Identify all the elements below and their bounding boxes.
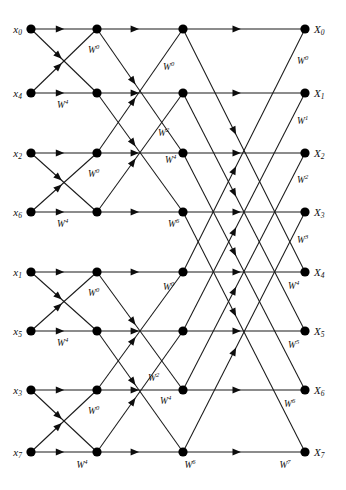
twiddle-factor-label: W2 xyxy=(158,126,170,138)
butterfly-node xyxy=(300,267,309,276)
input-label: x0 xyxy=(12,23,22,38)
butterfly-node xyxy=(178,385,187,394)
fft-butterfly-diagram: W0W4W0W4W0W4W0W4W0W2W4W6W0W2W4W6W0W1W2W3… xyxy=(0,0,346,490)
butterfly-node xyxy=(178,207,187,216)
twiddle-factor-label: W6 xyxy=(284,397,296,409)
edge-arrowhead xyxy=(229,247,236,256)
edge-arrowhead xyxy=(128,76,136,85)
arrowhead-layer xyxy=(53,26,241,456)
twiddle-factor-label: W5 xyxy=(288,338,300,350)
twiddle-factor-label: W4 xyxy=(57,217,69,229)
output-label: X0 xyxy=(313,23,325,38)
edge-arrowhead xyxy=(232,90,240,97)
twiddle-factor-label: W4 xyxy=(57,98,69,110)
twiddle-factor-label: W0 xyxy=(163,280,175,292)
butterfly-node xyxy=(92,24,101,33)
output-label: X6 xyxy=(313,384,325,399)
butterfly-node xyxy=(300,447,309,456)
input-label: x3 xyxy=(12,384,22,399)
edge-arrowhead xyxy=(229,166,236,175)
butterfly-node xyxy=(26,267,35,276)
butterfly-node xyxy=(178,267,187,276)
butterfly-node xyxy=(178,326,187,335)
output-label: X3 xyxy=(313,206,325,221)
edge-arrowhead xyxy=(232,150,240,157)
butterfly-node xyxy=(26,326,35,335)
edge-arrowhead xyxy=(131,209,139,216)
twiddle-factor-label: W4 xyxy=(288,279,300,291)
butterfly-node xyxy=(300,88,309,97)
butterfly-node xyxy=(300,385,309,394)
twiddle-factor-label: W0 xyxy=(88,167,100,179)
butterfly-node xyxy=(178,88,187,97)
twiddle-factor-label: W6 xyxy=(168,217,180,229)
butterfly-node xyxy=(92,447,101,456)
butterfly-node xyxy=(300,326,309,335)
edge-arrowhead xyxy=(128,159,136,168)
edge-arrowhead xyxy=(128,376,136,385)
edge-arrowhead xyxy=(229,126,236,135)
node-layer xyxy=(26,24,309,456)
input-label-layer: x0x4x2x6x1x5x3x7 xyxy=(12,23,22,461)
edge-arrowhead xyxy=(128,138,136,147)
edge-arrowhead xyxy=(128,398,136,407)
edge-arrowhead xyxy=(232,328,240,335)
input-label: x4 xyxy=(12,87,22,102)
edge-arrowhead xyxy=(56,150,64,157)
butterfly-node xyxy=(300,207,309,216)
butterfly-node xyxy=(92,326,101,335)
output-label: X1 xyxy=(313,87,324,102)
twiddle-factor-label: W4 xyxy=(165,153,177,165)
twiddle-factor-label: W4 xyxy=(57,336,69,348)
edge-arrowhead xyxy=(131,269,139,276)
edge-arrowhead xyxy=(56,387,64,394)
input-label: x6 xyxy=(12,206,22,221)
output-label: X5 xyxy=(313,325,325,340)
twiddle-label-layer: W0W4W0W4W0W4W0W4W0W2W4W6W0W2W4W6W0W1W2W3… xyxy=(57,43,309,470)
butterfly-node xyxy=(26,207,35,216)
twiddle-factor-label: W3 xyxy=(297,233,309,245)
butterfly-node xyxy=(92,267,101,276)
edge-arrowhead xyxy=(229,188,236,197)
edge-arrowhead xyxy=(56,90,64,97)
edge-arrowhead xyxy=(229,227,236,236)
input-label: x1 xyxy=(12,266,22,281)
edge-arrowhead xyxy=(229,347,236,356)
butterfly-node xyxy=(300,24,309,33)
edge-layer xyxy=(31,29,305,452)
twiddle-factor-label: W0 xyxy=(88,286,100,298)
twiddle-factor-label: W4 xyxy=(160,394,172,406)
twiddle-factor-label: W0 xyxy=(163,60,175,72)
edge-arrowhead xyxy=(232,449,240,456)
butterfly-node xyxy=(178,447,187,456)
edge-arrowhead xyxy=(131,449,139,456)
output-label: X2 xyxy=(313,147,325,162)
butterfly-node xyxy=(26,447,35,456)
butterfly-node xyxy=(178,24,187,33)
edge-arrowhead xyxy=(232,269,240,276)
edge-arrowhead xyxy=(232,387,240,394)
edge-arrowhead xyxy=(229,287,236,296)
butterfly-node xyxy=(92,385,101,394)
twiddle-factor-label: W7 xyxy=(279,458,291,470)
butterfly-node xyxy=(26,88,35,97)
butterfly-node xyxy=(26,385,35,394)
edge-arrowhead xyxy=(128,97,136,106)
edge-arrowhead xyxy=(56,209,64,216)
edge-arrowhead xyxy=(56,269,64,276)
edge-arrowhead xyxy=(232,209,240,216)
twiddle-factor-label: W0 xyxy=(88,404,100,416)
butterfly-node xyxy=(92,88,101,97)
butterfly-node xyxy=(26,148,35,157)
edge-arrowhead xyxy=(229,308,236,317)
edge-arrowhead xyxy=(128,337,136,346)
butterfly-node xyxy=(92,148,101,157)
output-label: X7 xyxy=(313,446,325,461)
edge-arrowhead xyxy=(232,26,240,33)
edge-arrowhead xyxy=(56,26,64,33)
edge-arrowhead xyxy=(131,90,139,97)
output-label: X4 xyxy=(313,266,325,281)
butterfly-node xyxy=(92,207,101,216)
butterfly-node xyxy=(300,148,309,157)
twiddle-factor-label: W0 xyxy=(297,54,309,66)
